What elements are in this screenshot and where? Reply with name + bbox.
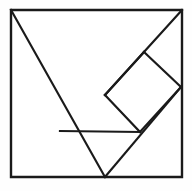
segment-horizontal-bar bbox=[60, 131, 140, 132]
tangram-figure bbox=[0, 0, 192, 191]
outer-square-outline bbox=[11, 10, 182, 177]
tangram-svg bbox=[0, 0, 192, 191]
